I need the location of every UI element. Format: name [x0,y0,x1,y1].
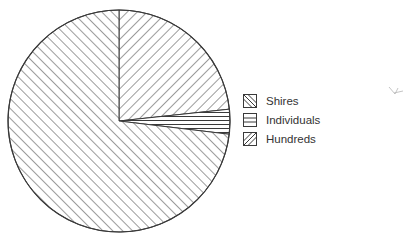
legend-label: Shires [266,94,299,108]
legend-label: Individuals [266,113,320,127]
legend-label: Hundreds [266,132,316,146]
backslash-hatch-swatch-icon [243,94,257,108]
pie-chart [0,0,414,239]
legend-item-shires: Shires [243,92,320,110]
legend-item-hundreds: Hundreds [243,130,320,148]
horizontal-lines-swatch-icon [243,113,257,127]
pie-slice-shires [119,10,229,121]
pie-slices [8,10,230,232]
forward-slash-hatch-swatch-icon [243,132,257,146]
chart-legend: Shires Individuals Hundreds [243,92,320,149]
stray-pencil-mark-icon [388,85,404,97]
legend-item-individuals: Individuals [243,111,320,129]
